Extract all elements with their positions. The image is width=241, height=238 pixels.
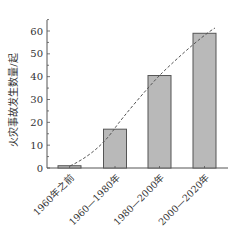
y-axis-label: 火灾事故发生数量/起 (7, 53, 19, 146)
y-tick-label: 10 (30, 140, 43, 151)
y-tick-label: 30 (30, 94, 43, 105)
bar (193, 33, 216, 168)
bar (148, 76, 171, 168)
y-tick-label: 20 (30, 117, 43, 128)
x-tick-label: 1960年之前 (31, 172, 77, 218)
bar (104, 129, 127, 168)
y-tick-label: 50 (30, 48, 43, 59)
bar-chart: 0102030405060火灾事故发生数量/起1960年之前1960—1980年… (0, 0, 241, 238)
y-tick-label: 0 (37, 163, 43, 174)
y-tick-label: 40 (30, 71, 43, 82)
y-tick-label: 60 (30, 26, 43, 37)
